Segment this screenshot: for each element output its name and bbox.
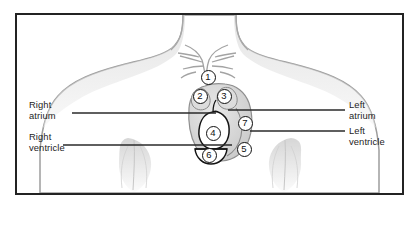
label-left-ventricle: Left ventricle (349, 126, 385, 147)
callout-1: 1 (201, 70, 216, 85)
label-right-ventricle: Right ventricle (29, 132, 65, 153)
callout-6: 6 (202, 148, 217, 163)
callout-3: 3 (217, 89, 232, 104)
callout-2: 2 (193, 89, 208, 104)
label-right-atrium: Right atrium (29, 100, 56, 121)
callout-5: 5 (237, 142, 252, 157)
label-left-atrium: Left atrium (349, 100, 376, 121)
callout-4: 4 (206, 126, 221, 141)
callout-7: 7 (238, 116, 253, 131)
